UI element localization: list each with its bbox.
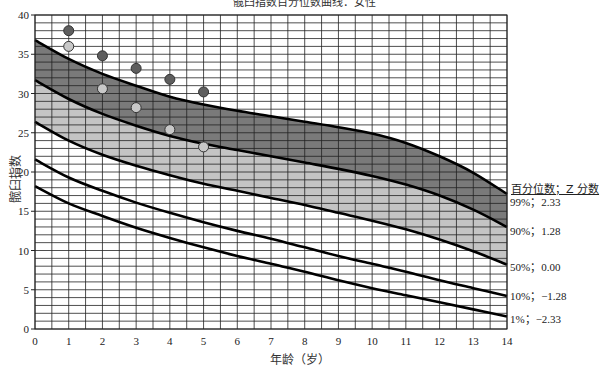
x-tick-label: 6 — [235, 335, 241, 347]
data-point-marker — [131, 103, 141, 113]
label-p90: 90%；1.28 — [510, 222, 560, 238]
data-point-marker — [64, 41, 74, 51]
data-point-marker — [131, 63, 141, 73]
x-tick-label: 5 — [201, 335, 207, 347]
y-tick-label: 10 — [18, 245, 30, 257]
grid-lines — [35, 15, 507, 329]
data-point-marker — [165, 125, 175, 135]
x-tick-label: 2 — [100, 335, 106, 347]
y-tick-label: 15 — [18, 205, 30, 217]
x-tick-label: 10 — [367, 335, 379, 347]
y-axis-label: 髋臼指数 — [6, 151, 23, 207]
x-tick-label: 7 — [268, 335, 274, 347]
y-tick-label: 30 — [18, 88, 30, 100]
y-tick-label: 0 — [24, 323, 30, 335]
data-point-marker — [97, 84, 107, 94]
x-axis-label: 年龄（岁） — [240, 350, 360, 367]
x-tick-label: 3 — [133, 335, 139, 347]
x-tick-label: 12 — [434, 335, 445, 347]
label-p99: 99%；2.33 — [510, 193, 560, 209]
x-tick-label: 13 — [468, 335, 480, 347]
x-tick-label: 14 — [502, 335, 514, 347]
label-p50: 50%；0.00 — [510, 258, 560, 274]
y-tick-label: 40 — [18, 9, 30, 21]
label-p10: 10%；−1.28 — [510, 287, 567, 303]
data-point-marker — [199, 87, 209, 97]
label-p1: 1%；−2.33 — [510, 310, 561, 326]
x-tick-label: 1 — [66, 335, 72, 347]
data-point-marker — [199, 142, 209, 152]
x-tick-label: 4 — [167, 335, 173, 347]
data-point-marker — [64, 26, 74, 36]
y-tick-label: 35 — [18, 48, 30, 60]
y-tick-label: 5 — [24, 284, 30, 296]
x-tick-label: 0 — [32, 335, 38, 347]
data-point-marker — [165, 74, 175, 84]
x-tick-label: 8 — [302, 335, 308, 347]
x-tick-label: 9 — [336, 335, 342, 347]
data-point-marker — [97, 51, 107, 61]
x-tick-label: 11 — [401, 335, 412, 347]
y-tick-label: 25 — [18, 127, 30, 139]
